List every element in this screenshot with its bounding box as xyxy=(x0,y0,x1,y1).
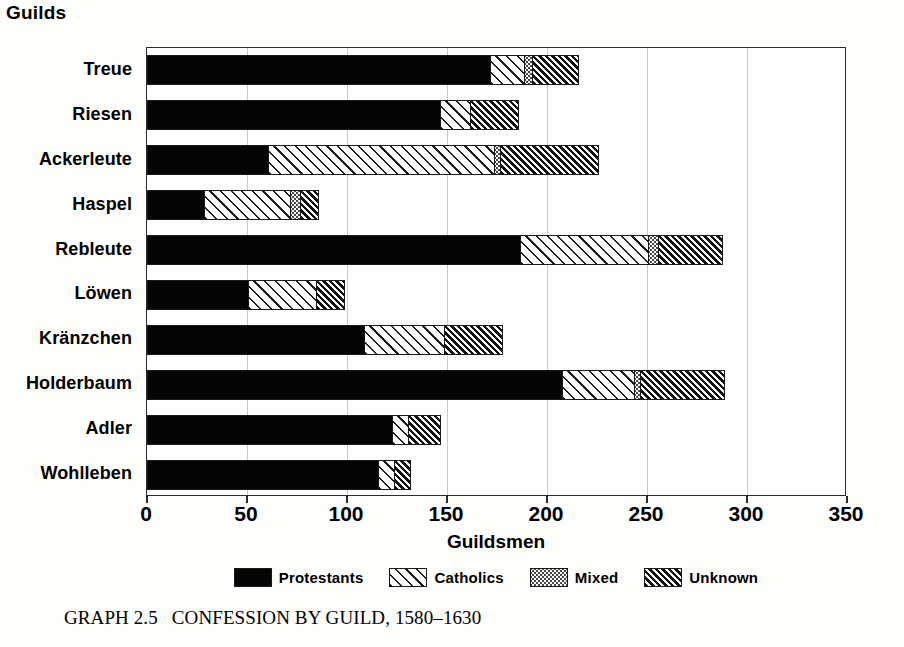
stacked-bar xyxy=(147,100,519,130)
bar-segment-catholics xyxy=(248,281,316,309)
dense-diagonal-hatch-swatch xyxy=(644,568,682,587)
x-tick-label: 0 xyxy=(140,502,152,526)
stacked-bar xyxy=(147,370,725,400)
bar-segment-catholics xyxy=(204,191,290,219)
bar-segment-unknown xyxy=(316,281,344,309)
bar-segment-protestants xyxy=(148,371,562,399)
bar-segment-catholics xyxy=(268,146,494,174)
category-label-treue: Treue xyxy=(83,47,132,92)
x-tick-label: 200 xyxy=(528,502,563,526)
bar-series-container xyxy=(147,48,845,495)
category-label-adler: Adler xyxy=(85,406,132,451)
diagonal-hatch-swatch xyxy=(389,568,427,587)
x-tick-label: 250 xyxy=(628,502,663,526)
category-label-holderbaum: Holderbaum xyxy=(26,361,132,406)
category-label-kränzchen: Kränzchen xyxy=(39,316,132,361)
legend-item-mixed[interactable]: Mixed xyxy=(530,568,619,587)
bar-segment-catholics xyxy=(378,461,394,489)
bar-segment-unknown xyxy=(532,56,578,84)
stacked-bar xyxy=(147,55,579,85)
stacked-bar xyxy=(147,280,345,310)
bar-row xyxy=(147,273,345,318)
category-label-löwen: Löwen xyxy=(75,272,133,317)
bar-segment-protestants xyxy=(148,191,204,219)
stacked-bar xyxy=(147,460,411,490)
chart-legend: ProtestantsCatholicsMixedUnknown xyxy=(146,568,846,587)
stacked-bar xyxy=(147,415,441,445)
x-tick-label: 50 xyxy=(234,502,257,526)
x-axis-tick-labels: 050100150200250300350 xyxy=(0,502,904,532)
bar-segment-catholics xyxy=(520,236,648,264)
caption-number: GRAPH 2.5 xyxy=(64,607,158,628)
solid-black-swatch xyxy=(234,568,272,587)
bar-row xyxy=(147,93,519,138)
bar-segment-protestants xyxy=(148,101,440,129)
bar-segment-protestants xyxy=(148,236,520,264)
bar-segment-unknown xyxy=(640,371,724,399)
legend-label: Unknown xyxy=(689,569,758,586)
bar-segment-unknown xyxy=(658,236,722,264)
x-tick-label: 100 xyxy=(328,502,363,526)
bar-segment-catholics xyxy=(364,326,444,354)
bar-segment-protestants xyxy=(148,416,392,444)
category-label-riesen: Riesen xyxy=(72,92,132,137)
category-label-wohlleben: Wohlleben xyxy=(40,451,132,496)
category-label-ackerleute: Ackerleute xyxy=(39,137,132,182)
bar-segment-mixed xyxy=(524,56,532,84)
x-tick-label: 150 xyxy=(428,502,463,526)
bar-row xyxy=(147,48,579,93)
bar-segment-mixed xyxy=(648,236,658,264)
x-tick-label: 350 xyxy=(828,502,863,526)
x-tick-label: 300 xyxy=(728,502,763,526)
caption-text: CONFESSION BY GUILD, 1580–1630 xyxy=(172,607,481,628)
bar-row xyxy=(147,138,599,183)
bar-segment-unknown xyxy=(394,461,410,489)
plot-area xyxy=(146,47,846,496)
bar-row xyxy=(147,183,319,228)
y-axis-title: Guilds xyxy=(6,2,66,24)
dotted-swatch xyxy=(530,568,568,587)
bar-row xyxy=(147,452,411,497)
chart-page: Guilds TreueRiesenAckerleuteHaspelRebleu… xyxy=(0,0,904,647)
bar-segment-catholics xyxy=(490,56,524,84)
bar-segment-unknown xyxy=(408,416,440,444)
category-label-haspel: Haspel xyxy=(72,182,132,227)
bar-segment-protestants xyxy=(148,281,248,309)
stacked-bar xyxy=(147,325,503,355)
bar-row xyxy=(147,362,725,407)
bar-row xyxy=(147,317,503,362)
bar-segment-unknown xyxy=(444,326,502,354)
bar-segment-unknown xyxy=(300,191,318,219)
bar-row xyxy=(147,228,723,273)
x-axis-title: Guildsmen xyxy=(146,531,846,553)
bar-segment-mixed xyxy=(290,191,300,219)
bar-segment-protestants xyxy=(148,326,364,354)
bar-segment-unknown xyxy=(500,146,598,174)
legend-label: Catholics xyxy=(434,569,503,586)
stacked-bar xyxy=(147,235,723,265)
legend-item-unknown[interactable]: Unknown xyxy=(644,568,758,587)
stacked-bar xyxy=(147,190,319,220)
bar-segment-catholics xyxy=(392,416,408,444)
bar-segment-protestants xyxy=(148,461,378,489)
bar-segment-catholics xyxy=(440,101,470,129)
bar-segment-protestants xyxy=(148,146,268,174)
legend-label: Mixed xyxy=(575,569,619,586)
category-axis-labels: TreueRiesenAckerleuteHaspelRebleuteLöwen… xyxy=(0,47,142,496)
legend-item-protestants[interactable]: Protestants xyxy=(234,568,364,587)
figure-caption: GRAPH 2.5CONFESSION BY GUILD, 1580–1630 xyxy=(64,607,481,629)
category-label-rebleute: Rebleute xyxy=(55,227,132,272)
stacked-bar xyxy=(147,145,599,175)
legend-label: Protestants xyxy=(279,569,364,586)
legend-item-catholics[interactable]: Catholics xyxy=(389,568,503,587)
bar-segment-catholics xyxy=(562,371,634,399)
bar-row xyxy=(147,407,441,452)
bar-segment-protestants xyxy=(148,56,490,84)
bar-segment-unknown xyxy=(470,101,518,129)
